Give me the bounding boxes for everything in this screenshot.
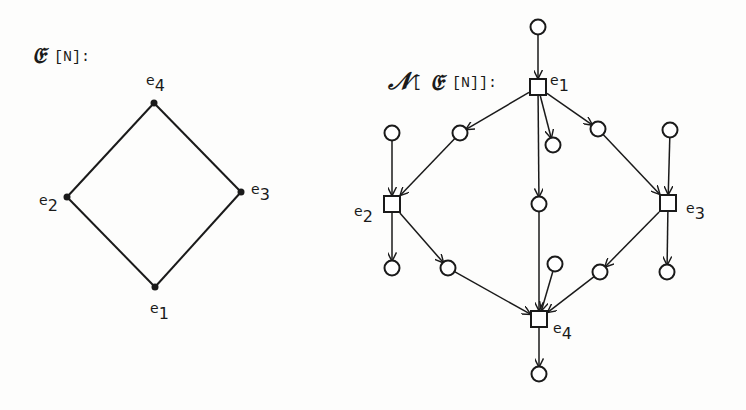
node-label-e3: e3 (251, 181, 270, 204)
transition-box-e2 (384, 196, 400, 212)
place-circle-p_e4_in (548, 257, 563, 272)
node-dot-e3 (238, 189, 245, 196)
place-circle-p_e2_out (385, 261, 400, 276)
diagram-svg: 𝔈 [N]: 𝒩 [ 𝔈 [N]]: e1e2e3e4 e1e2e3e4 (0, 0, 746, 410)
arc-e3-p_e3e4 (605, 212, 659, 267)
arc-e1-p_e1_out (540, 96, 551, 138)
place-circle-p_top (531, 20, 546, 35)
node-label-e4: e4 (146, 72, 165, 95)
place-circle-p_e1e2 (453, 126, 468, 141)
edge-e3-e4 (154, 103, 241, 192)
place-circle-p_e1e4 (532, 197, 547, 212)
edge-e2-e4 (67, 103, 154, 197)
arc-e1-p_e1e2 (466, 92, 529, 129)
arc-p_e2e4-e4 (455, 272, 530, 314)
left-graph-title: 𝔈 [N]: (32, 42, 90, 68)
right-title-script-e: 𝔈 (430, 69, 448, 95)
arc-p_e3e4-e4 (548, 277, 594, 312)
edge-e1-e2 (67, 197, 155, 287)
arc-e3-p_e3_out (667, 212, 668, 265)
node-label-e1: e1 (550, 72, 569, 95)
arc-e1-p_e1e4 (538, 96, 539, 197)
arc-e2-p_e2e4 (400, 213, 443, 262)
left-title-script: 𝔈 (32, 42, 50, 68)
arc-p_e4_in-e4 (542, 271, 553, 310)
node-label-e3: e3 (686, 200, 705, 223)
transition-box-e4 (531, 311, 547, 327)
left-title-rest: [N]: (54, 49, 90, 66)
transition-box-e1 (530, 79, 546, 95)
node-dot-e4 (151, 100, 158, 107)
left-graph: e1e2e3e4 (39, 72, 270, 323)
node-label-e4: e4 (553, 320, 572, 343)
arc-e1-p_e1e3 (547, 93, 592, 124)
arc-p_e1e3-e3 (603, 134, 659, 194)
place-circle-p_e2_in (385, 126, 400, 141)
right-title-open: [ (412, 74, 422, 92)
place-circle-p_e3_in (663, 123, 678, 138)
place-circle-p_bottom (532, 367, 547, 382)
edge-e1-e3 (155, 192, 241, 287)
place-circle-p_e2e4 (441, 261, 456, 276)
diagram-canvas: 𝔈 [N]: 𝒩 [ 𝔈 [N]]: e1e2e3e4 e1e2e3e4 (0, 0, 746, 410)
place-circle-p_e3_out (660, 265, 675, 280)
right-title-rest: [N]]: (452, 75, 497, 92)
node-label-e1: e1 (150, 300, 169, 323)
node-label-e2: e2 (354, 203, 373, 226)
place-circle-p_e3e4 (593, 265, 608, 280)
node-dot-e2 (64, 194, 71, 201)
arc-p_e3_in-e3 (668, 137, 670, 194)
node-dot-e1 (152, 284, 159, 291)
right-net-title: 𝒩 [ 𝔈 [N]]: (387, 66, 497, 95)
node-label-e2: e2 (39, 192, 58, 215)
transition-box-e3 (660, 195, 676, 211)
place-circle-p_e1e3 (591, 122, 606, 137)
place-circle-p_e1_out (546, 138, 561, 153)
arc-p_e1e2-e2 (401, 138, 455, 195)
